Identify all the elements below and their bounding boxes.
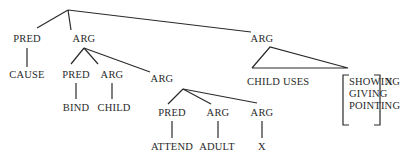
tree-diagram: PRED ARG ARG CAUSE PRED ARG ARG BIND CHI… (0, 0, 402, 163)
node-bind: BIND (63, 103, 89, 114)
phrase-child-uses: CHILD USES (247, 77, 309, 88)
node-arg-x: ARG (251, 108, 274, 119)
node-arg: ARG (207, 108, 230, 119)
option-pointing: POINTING (349, 100, 400, 112)
tree-edges (0, 0, 402, 163)
node-arg-right: ARG (251, 34, 274, 45)
node-x: X (258, 142, 266, 153)
node-pred: PRED (13, 34, 41, 45)
trailing-x: X (385, 77, 393, 88)
node-pred: PRED (158, 108, 186, 119)
node-pred: PRED (62, 70, 90, 81)
node-attend: ATTEND (151, 142, 193, 153)
node-arg-embedded: ARG (151, 74, 174, 85)
node-child: CHILD (97, 103, 130, 114)
node-arg: ARG (73, 34, 96, 45)
node-arg: ARG (101, 70, 124, 81)
node-adult: ADULT (199, 142, 235, 153)
node-cause: CAUSE (9, 70, 44, 81)
option-giving: GIVING (349, 88, 400, 100)
